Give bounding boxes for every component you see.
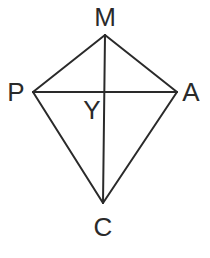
edge-mp (33, 35, 105, 92)
kite-diagram: M P A C Y (0, 0, 210, 258)
kite-diagonals (33, 35, 177, 203)
intersection-label-y: Y (83, 95, 100, 125)
edge-ac (103, 92, 177, 203)
diagonal-mc (103, 35, 105, 203)
edge-ma (105, 35, 177, 92)
vertex-label-a: A (182, 77, 200, 107)
vertex-label-m: M (94, 2, 116, 32)
vertex-label-p: P (7, 77, 24, 107)
vertex-label-c: C (94, 212, 113, 242)
